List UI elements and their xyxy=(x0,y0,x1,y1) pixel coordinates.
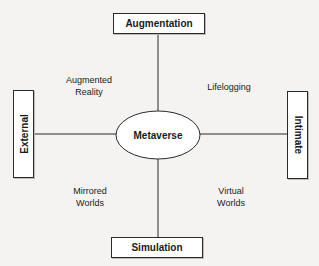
intimate-box: Intimate xyxy=(287,91,308,179)
simulation-box: Simulation xyxy=(111,237,203,258)
simulation-label: Simulation xyxy=(131,242,182,253)
augmentation-label: Augmentation xyxy=(125,18,192,29)
quadrant-augmented-reality: Augmented Reality xyxy=(66,74,112,98)
metaverse-center-label: Metaverse xyxy=(134,130,183,141)
external-label: External xyxy=(18,114,29,153)
intimate-label: Intimate xyxy=(292,116,303,154)
quadrant-label-line: Reality xyxy=(66,86,112,98)
external-box: External xyxy=(13,90,34,178)
quadrant-label-line: Lifelogging xyxy=(207,81,251,93)
quadrant-label-line: Worlds xyxy=(217,197,245,209)
quadrant-virtual-worlds: Virtual Worlds xyxy=(217,185,245,209)
quadrant-label-line: Virtual xyxy=(217,185,245,197)
quadrant-label-line: Augmented xyxy=(66,74,112,86)
quadrant-mirrored-worlds: Mirrored Worlds xyxy=(73,185,107,209)
quadrant-lifelogging: Lifelogging xyxy=(207,81,251,93)
quadrant-label-line: Mirrored xyxy=(73,185,107,197)
augmentation-box: Augmentation xyxy=(113,13,205,34)
quadrant-label-line: Worlds xyxy=(73,197,107,209)
